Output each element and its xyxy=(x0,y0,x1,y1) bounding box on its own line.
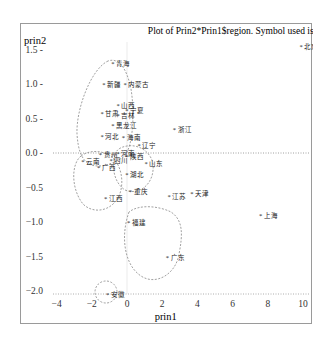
x-tick-label: 0 xyxy=(125,299,130,309)
data-point: * 上海 xyxy=(259,211,278,220)
y-tick-label: 0.5 - xyxy=(26,114,43,124)
y-tick-label: −1.5 xyxy=(26,252,43,262)
plot-frame: Plot of Prin2*Prin1$region. Symbol used … xyxy=(20,23,312,324)
data-point: * 江西 xyxy=(104,195,123,203)
data-point: * 吉林 xyxy=(116,111,135,120)
data-point: * 辽宁 xyxy=(138,141,157,150)
y-tick-label: 1.5 - xyxy=(26,45,43,55)
data-point: * 新疆 xyxy=(102,80,121,89)
data-point: * 山东 xyxy=(145,159,164,168)
data-point: * 重庆 xyxy=(129,187,148,196)
data-point: * 湖北 xyxy=(125,170,144,179)
x-axis-label: prin1 xyxy=(155,311,177,322)
chart-title: Plot of Prin2*Prin1$region. Symbol used … xyxy=(148,26,313,36)
y-tick-label: 0.0 - xyxy=(26,148,43,158)
x-tick-label: −2 xyxy=(87,299,97,309)
x-tick-label: 6 xyxy=(230,299,235,309)
data-point: * 内蒙古 xyxy=(123,80,149,89)
data-point: * 北京 xyxy=(299,42,313,51)
x-tick-label: 8 xyxy=(265,299,270,309)
data-point: * 广东 xyxy=(166,253,185,262)
x-tick-label: 10 xyxy=(298,299,308,309)
x-tick-label: 2 xyxy=(160,299,165,309)
data-point: * 浙江 xyxy=(173,125,192,134)
data-point: * 安徽 xyxy=(106,290,125,299)
data-point: * 江苏 xyxy=(167,192,186,201)
x-tick-label: 4 xyxy=(195,299,200,309)
data-point: * 广西 xyxy=(97,163,116,172)
data-point: * 福建 xyxy=(127,218,146,227)
cluster-outline xyxy=(125,207,182,280)
data-point: * 天津 xyxy=(190,190,209,198)
x-tick-label: −4 xyxy=(52,299,62,309)
y-tick-label: −0.5 xyxy=(26,183,43,193)
y-tick-label: −1.0 xyxy=(26,217,43,227)
scatter-plot: Plot of Prin2*Prin1$region. Symbol used … xyxy=(21,24,313,325)
data-point: * 青海 xyxy=(111,59,130,68)
y-tick-label: 1.0 - xyxy=(26,79,43,89)
data-point: * 黑龙江 xyxy=(111,121,137,130)
y-tick-label: −2.0 xyxy=(26,286,43,296)
data-point: * 河北 xyxy=(101,133,120,141)
